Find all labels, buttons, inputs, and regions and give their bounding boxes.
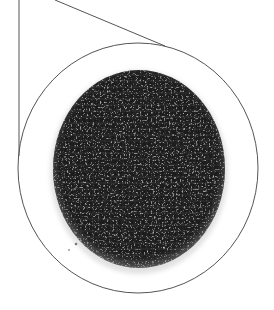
diagonal-leader-line	[55, 0, 165, 46]
magnified-inset-figure	[0, 0, 274, 310]
stray-dots	[68, 243, 77, 251]
inset-diagram	[0, 0, 274, 310]
